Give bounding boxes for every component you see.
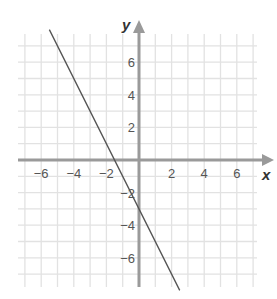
y-tick-label: 4 (128, 88, 135, 103)
axes (18, 20, 274, 287)
x-tick-label: 6 (233, 166, 240, 181)
y-tick-label: 6 (128, 55, 135, 70)
x-tick-label: 4 (201, 166, 208, 181)
x-tick-label: −6 (34, 166, 49, 181)
y-tick-label: −4 (120, 218, 135, 233)
x-tick-label: −4 (66, 166, 81, 181)
x-axis-arrow-icon (262, 154, 274, 166)
coordinate-plane: −6−4−2246642−2−4−6 x y (0, 0, 277, 299)
y-axis-label: y (121, 16, 131, 33)
y-axis-arrow-icon (133, 20, 145, 33)
y-tick-label: 2 (128, 120, 135, 135)
x-axis-label: x (261, 166, 271, 183)
x-tick-label: −2 (99, 166, 114, 181)
y-tick-label: −2 (120, 186, 135, 201)
x-tick-label: 2 (168, 166, 175, 181)
y-tick-label: −6 (120, 251, 135, 266)
